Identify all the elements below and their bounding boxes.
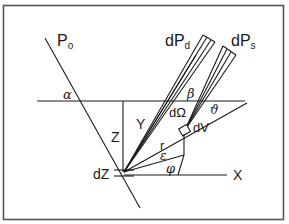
label-theta: ϑ [210,103,219,117]
label-domega: dΩ [169,105,186,120]
dpd-beam [124,35,215,172]
label-alpha: α [63,87,72,102]
label-dz: dZ [93,166,110,182]
po-line [45,38,140,208]
dv-volume-box [179,125,191,136]
label-phi: φ [166,161,176,176]
label-y: Y [136,116,146,132]
label-x: X [233,167,243,183]
diagram-canvas: Po dPd dPs α β ϑ dΩ dV Z Y r ε φ dZ X [0,0,289,224]
label-z: Z [111,129,120,145]
label-dpd: dPd [165,32,190,51]
label-po: Po [57,32,74,51]
label-beta: β [186,86,195,101]
label-dps: dPs [231,32,256,51]
label-dv: dV [193,120,209,135]
